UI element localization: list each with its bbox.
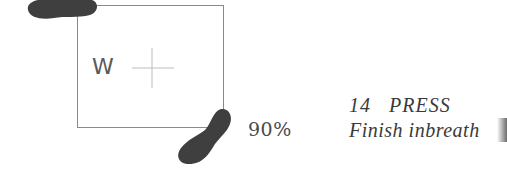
- page-edge-shadow: [497, 118, 507, 142]
- footprint-right-icon: [175, 106, 235, 168]
- step-heading: 14PRESS: [349, 95, 451, 115]
- step-description: Finish inbreath: [349, 120, 480, 140]
- mat-label: W: [92, 56, 113, 78]
- breath-percentage: 90%: [248, 120, 292, 139]
- yoga-step-diagram: W 90% 14PRESS Finish inbreath: [0, 0, 507, 179]
- footprint-left-icon: [24, 0, 100, 22]
- crosshair-icon: [130, 46, 176, 90]
- step-title: PRESS: [389, 94, 451, 116]
- step-number: 14: [349, 94, 371, 116]
